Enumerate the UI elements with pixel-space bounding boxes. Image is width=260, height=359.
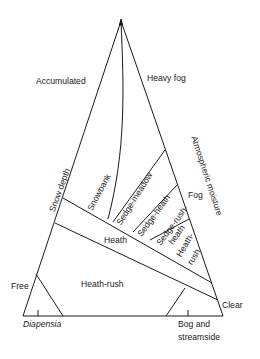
label-clear: Clear xyxy=(222,301,243,310)
label-fog: Fog xyxy=(188,191,203,200)
snowbank-boundary-line xyxy=(108,21,123,219)
region-heath: Heath xyxy=(104,236,127,245)
bog-boundary-line xyxy=(166,288,185,316)
region-heath-rush: Heath-rush xyxy=(81,280,124,289)
label-free: Free xyxy=(11,282,29,291)
label-bog-and: Bog and xyxy=(178,320,210,329)
diapensia-boundary-line xyxy=(36,274,63,316)
label-heavy-fog: Heavy fog xyxy=(147,74,186,83)
vegetation-ternary-diagram xyxy=(0,0,260,359)
label-diapensia: Diapensia xyxy=(23,320,61,329)
label-accumulated: Accumulated xyxy=(36,77,86,86)
label-streamside: streamside xyxy=(178,333,220,342)
